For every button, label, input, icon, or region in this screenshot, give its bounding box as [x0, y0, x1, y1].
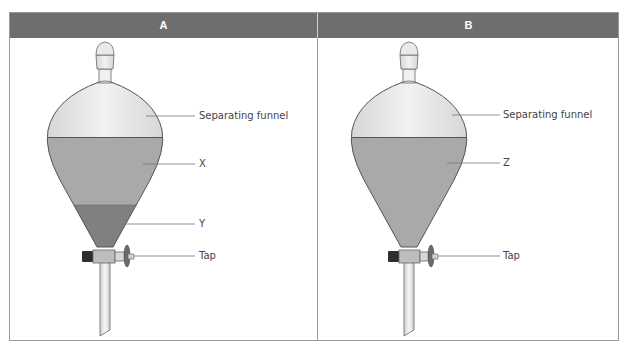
label-b-tap: Tap [503, 250, 520, 262]
label-b-z: Z [503, 157, 510, 169]
layer-x [40, 137, 170, 205]
funnel-b [344, 42, 500, 336]
label-a-tap: Tap [199, 250, 216, 262]
stem-b [404, 258, 414, 336]
stopper-a [96, 55, 114, 69]
label-a-x: X [199, 158, 206, 170]
label-a-y: Y [199, 218, 205, 230]
label-b-separating-funnel: Separating funnel [503, 109, 592, 121]
label-a-separating-funnel: Separating funnel [199, 110, 288, 122]
funnels-drawing [0, 0, 625, 349]
stem-a [100, 258, 110, 336]
funnel-a [40, 42, 195, 336]
stopper-b [400, 55, 418, 69]
layer-z [344, 137, 474, 255]
